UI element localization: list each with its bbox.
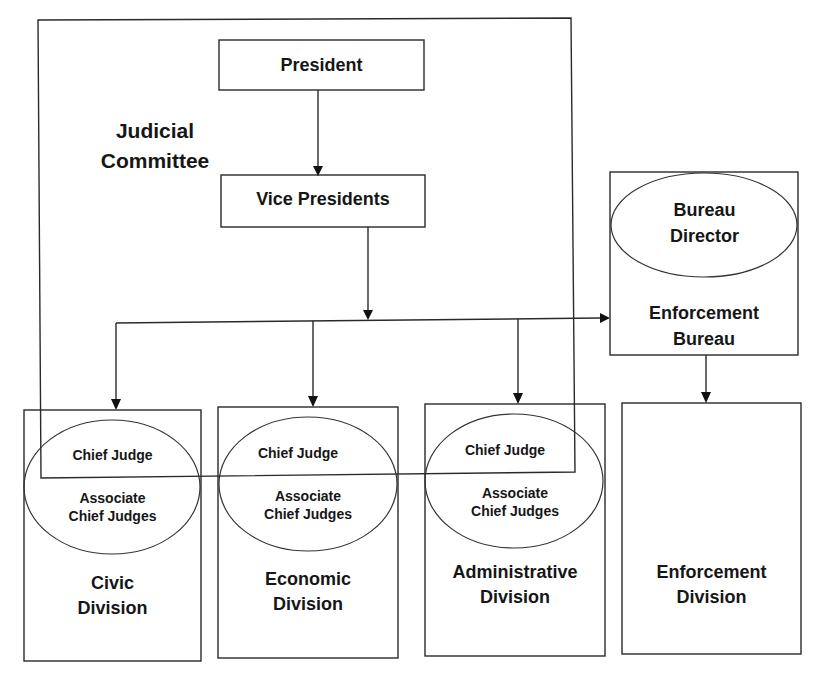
division-name-line1: Enforcement [622, 560, 801, 585]
bureau-director-label: Bureau Director [611, 197, 798, 249]
bureau-director-line2: Director [611, 223, 798, 249]
arrowhead-icon [308, 396, 318, 407]
civic-chief-judge: Chief Judge [24, 446, 201, 464]
civic-division-label: Civic Division [24, 571, 201, 621]
associate-line1: Associate [218, 487, 398, 505]
enforcement-bureau-label: Enforcement Bureau [610, 300, 798, 352]
economic-associate-judges: Associate Chief Judges [218, 487, 398, 523]
division-name-line2: Division [24, 596, 201, 621]
associate-line1: Associate [24, 489, 201, 507]
arrowhead-icon [600, 313, 610, 323]
committee-label-line2: Committee [80, 146, 230, 176]
enforcement-division-label: Enforcement Division [622, 560, 801, 610]
enforcement-bureau-line1: Enforcement [610, 300, 798, 326]
associate-line2: Chief Judges [218, 505, 398, 523]
arrowhead-icon [701, 392, 711, 403]
associate-line2: Chief Judges [425, 502, 605, 520]
division-name-line1: Civic [24, 571, 201, 596]
arrowhead-icon [111, 399, 121, 410]
enforcement-division-box [622, 403, 801, 654]
committee-label-line1: Judicial [80, 116, 230, 146]
division-name-line2: Division [425, 585, 605, 610]
administrative-division-label: Administrative Division [425, 560, 605, 610]
associate-line2: Chief Judges [24, 507, 201, 525]
president-label: President [219, 55, 424, 77]
administrative-associate-judges: Associate Chief Judges [425, 484, 605, 520]
enforcement-bureau-line2: Bureau [610, 326, 798, 352]
branch-horizontal-line [116, 318, 600, 323]
judicial-committee-label: Judicial Committee [80, 116, 230, 176]
arrowhead-icon [363, 310, 373, 320]
associate-line1: Associate [425, 484, 605, 502]
economic-chief-judge: Chief Judge [208, 444, 388, 462]
civic-associate-judges: Associate Chief Judges [24, 489, 201, 525]
division-name-line1: Administrative [425, 560, 605, 585]
administrative-chief-judge: Chief Judge [415, 441, 595, 459]
bureau-director-line1: Bureau [611, 197, 798, 223]
division-name-line2: Division [218, 592, 398, 617]
division-name-line2: Division [622, 585, 801, 610]
vice-presidents-label: Vice Presidents [221, 189, 425, 211]
economic-division-label: Economic Division [218, 567, 398, 617]
division-name-line1: Economic [218, 567, 398, 592]
arrowhead-icon [513, 393, 523, 404]
